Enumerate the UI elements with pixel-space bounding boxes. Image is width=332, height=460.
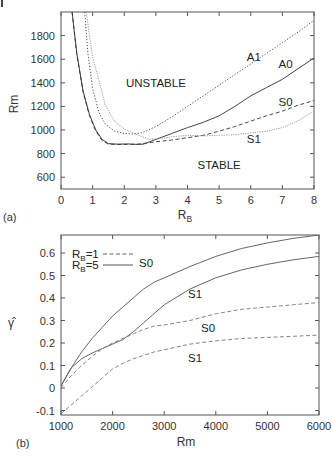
series-line-a1 — [85, 12, 314, 134]
plot-area-a — [61, 12, 314, 189]
series-group-a — [72, 12, 314, 144]
y-tick-label: 1400 — [31, 77, 55, 89]
x-tick-label: 5 — [216, 194, 222, 206]
y-tick-label: 0.5 — [40, 270, 55, 282]
annotation-a0: A0 — [278, 58, 292, 70]
legend-label: RB=5 — [72, 259, 99, 274]
x-tick-label: 3000 — [152, 420, 176, 432]
y-tick-label: 600 — [37, 171, 55, 183]
figure: 012345678 60080010001200140016001800 UNS… — [0, 0, 332, 460]
x-tick-label: 6 — [248, 194, 254, 206]
annotation-s0: S0 — [139, 257, 153, 269]
x-tick-label: 1000 — [49, 420, 73, 432]
y-tick-label: 1800 — [31, 30, 55, 42]
series-line-s1 — [86, 12, 314, 139]
series-line-s1-r-b-5- — [61, 256, 319, 385]
annotation-s0: S0 — [201, 322, 215, 334]
x-axis-label-a: RB — [178, 208, 193, 224]
x-axis-ticks-a: 012345678 — [58, 12, 317, 206]
annotation-s0: S0 — [278, 96, 292, 108]
series-line-s1-r-b-1- — [61, 335, 319, 414]
y-tick-label: 0.1 — [40, 360, 55, 372]
annotations-b: S0S1S0S1 — [139, 257, 215, 364]
annotation-unstable: UNSTABLE — [126, 77, 186, 89]
x-tick-label: 0 — [58, 194, 64, 206]
y-tick-label: 0.2 — [40, 337, 55, 349]
x-tick-label: 2 — [121, 194, 127, 206]
y-tick-label: 0.3 — [40, 315, 55, 327]
series-line-s0 — [72, 12, 314, 144]
x-tick-label: 1 — [90, 194, 96, 206]
x-axis-label-b: Rm — [177, 435, 196, 449]
x-tick-label: 8 — [311, 194, 317, 206]
y-tick-label: 0 — [49, 382, 55, 394]
y-tick-label: 0.6 — [40, 247, 55, 259]
y-tick-label: 0.4 — [40, 292, 55, 304]
x-tick-label: 4 — [184, 194, 190, 206]
y-tick-label: 1600 — [31, 53, 55, 65]
legend-b: RB=1RB=5 — [72, 248, 133, 274]
annotation-s1: S1 — [247, 133, 261, 145]
y-axis-ticks-a: 60080010001200140016001800 — [31, 30, 314, 184]
x-tick-label: 2000 — [100, 420, 124, 432]
annotation-a1: A1 — [247, 51, 261, 63]
chart-panel-b: 100020003000400050006000 -0.100.10.20.30… — [8, 235, 331, 449]
x-tick-label: 3 — [153, 194, 159, 206]
series-group-b — [61, 235, 319, 414]
x-tick-label: 6000 — [307, 420, 331, 432]
y-tick-label: 1200 — [31, 100, 55, 112]
panel-label-b: (b) — [16, 437, 29, 449]
y-axis-label-a: Rm — [7, 95, 21, 114]
y-tick-label: 800 — [37, 148, 55, 160]
x-tick-label: 5000 — [255, 420, 279, 432]
annotation-s1: S1 — [188, 288, 202, 300]
annotations-a: UNSTABLESTABLEA1A0S0S1 — [126, 51, 293, 172]
annotation-stable: STABLE — [198, 159, 242, 171]
chart-panel-a: 012345678 60080010001200140016001800 UNS… — [3, 12, 317, 224]
annotation-s1: S1 — [188, 352, 202, 364]
series-line-a0 — [72, 12, 314, 144]
x-tick-label: 7 — [279, 194, 285, 206]
y-tick-label: -0.1 — [36, 405, 55, 417]
series-line-s0-r-b-1- — [61, 303, 319, 389]
x-tick-label: 4000 — [204, 420, 228, 432]
panel-label-a: (a) — [3, 211, 16, 223]
y-axis-label-b: γ̂ — [8, 316, 16, 330]
y-tick-label: 1000 — [31, 124, 55, 136]
